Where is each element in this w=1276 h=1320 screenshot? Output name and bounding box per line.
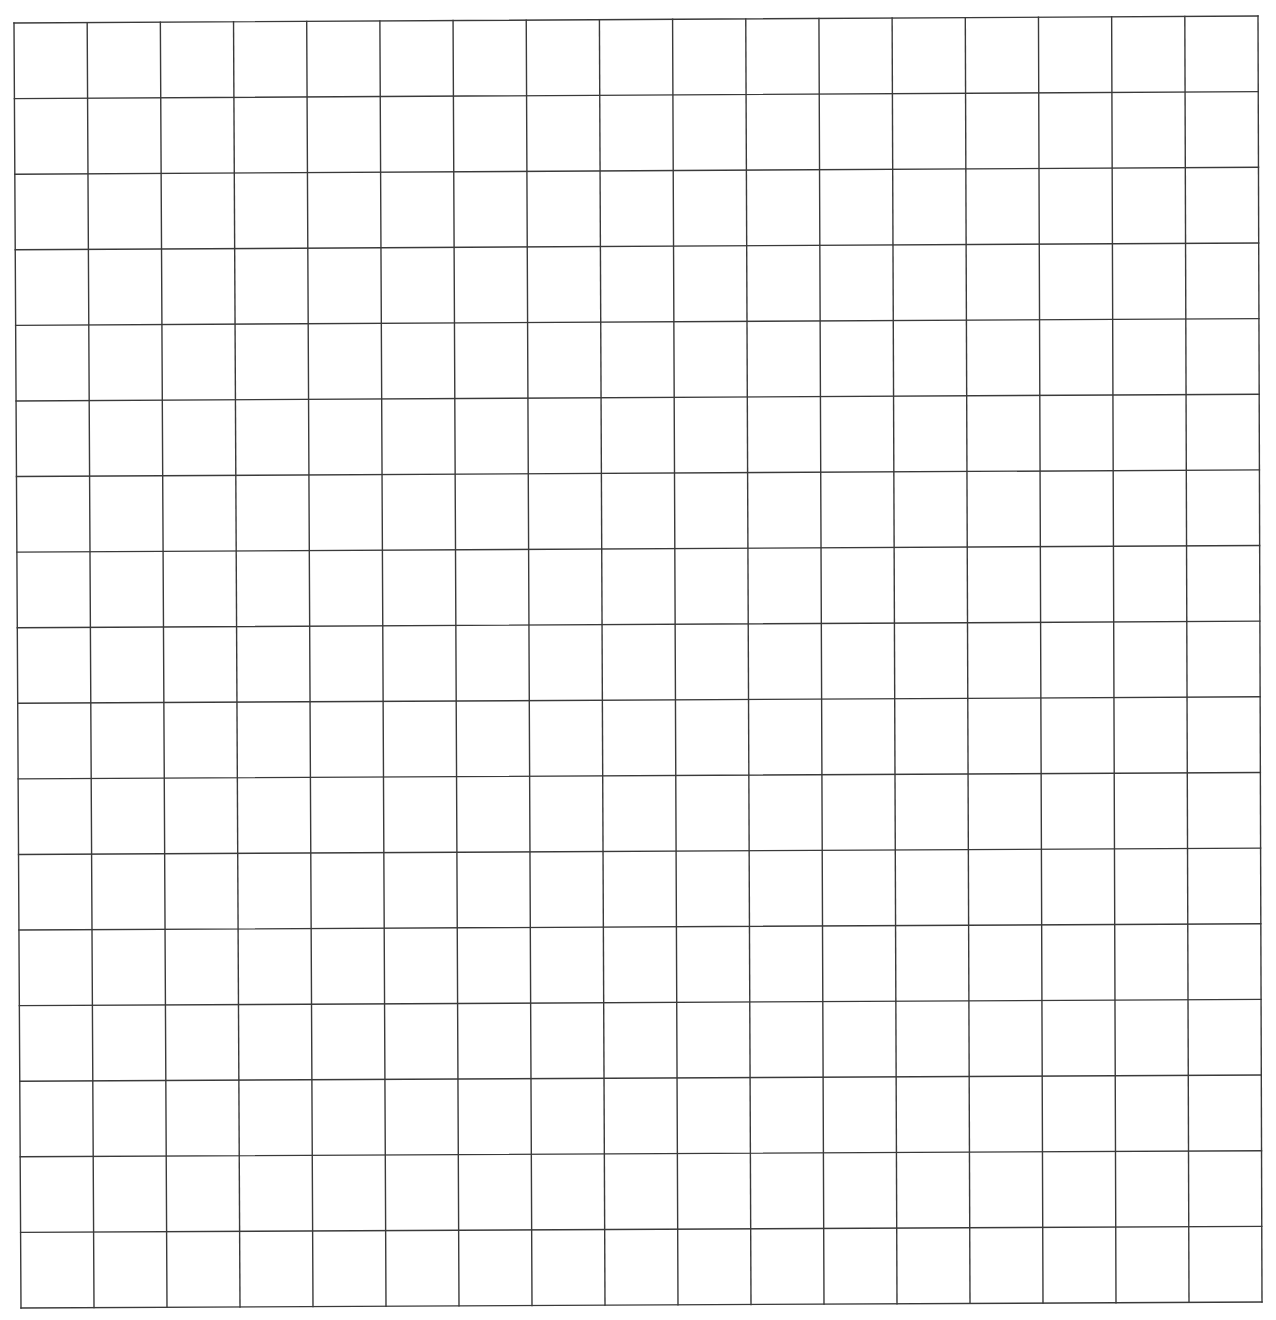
horizontal-grid-line (18, 772, 1260, 778)
horizontal-grid-line (15, 243, 1258, 250)
vertical-grid-line (965, 18, 970, 1304)
vertical-grid-line (526, 20, 532, 1305)
horizontal-grid-line (19, 848, 1261, 854)
vertical-grid-line (14, 23, 21, 1308)
horizontal-grid-line (17, 546, 1260, 553)
vertical-grid-line (746, 19, 751, 1305)
vertical-grid-line (307, 21, 313, 1306)
vertical-grid-line (599, 20, 605, 1305)
horizontal-grid-line (20, 1151, 1261, 1157)
grid-lines (14, 16, 1262, 1308)
vertical-grid-line (1258, 16, 1262, 1302)
horizontal-grid-line (21, 1226, 1262, 1232)
vertical-grid-line (87, 23, 94, 1308)
vertical-grid-line (453, 21, 459, 1306)
vertical-grid-line (892, 18, 897, 1304)
vertical-grid-line (819, 18, 824, 1304)
vertical-grid-line (1038, 17, 1043, 1303)
horizontal-grid-line (20, 1075, 1262, 1081)
graph-paper-grid (0, 0, 1276, 1320)
horizontal-grid-line (16, 394, 1259, 401)
vertical-grid-line (1185, 16, 1189, 1302)
vertical-grid-line (673, 19, 678, 1305)
horizontal-grid-line (14, 92, 1258, 99)
vertical-grid-line (1112, 17, 1116, 1303)
vertical-grid-line (380, 21, 386, 1306)
horizontal-grid-line (19, 924, 1261, 930)
vertical-grid-line (160, 22, 167, 1307)
horizontal-grid-line (19, 999, 1261, 1005)
horizontal-grid-line (21, 1302, 1262, 1308)
horizontal-grid-line (17, 621, 1260, 628)
horizontal-grid-line (18, 697, 1260, 703)
horizontal-grid-line (16, 470, 1259, 477)
horizontal-grid-line (14, 16, 1258, 23)
horizontal-grid-line (15, 167, 1259, 174)
horizontal-grid-line (16, 319, 1259, 326)
vertical-grid-line (234, 22, 240, 1307)
